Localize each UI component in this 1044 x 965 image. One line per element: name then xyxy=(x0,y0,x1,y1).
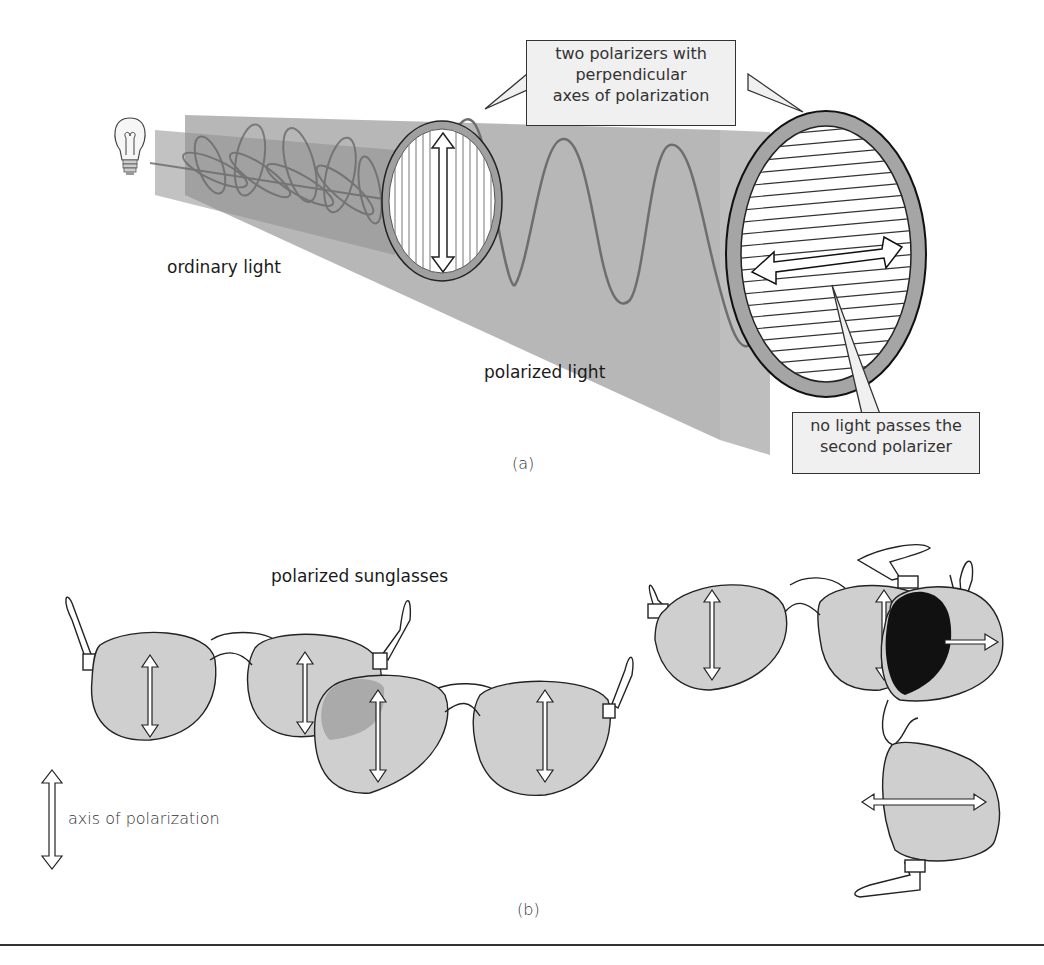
legend-axis-arrow-icon xyxy=(42,770,62,869)
callout-line: axes of polarization xyxy=(533,85,729,106)
caption-a: (a) xyxy=(512,454,534,473)
callout-line: no light passes the xyxy=(799,415,973,436)
legend-label-axis: axis of polarization xyxy=(68,809,220,828)
callout-line: perpendicular xyxy=(533,64,729,85)
title-polarized-sunglasses: polarized sunglasses xyxy=(271,566,448,586)
bottom-divider xyxy=(0,944,1044,946)
light-bulb-icon xyxy=(115,118,145,175)
callout-no-light: no light passes the second polarizer xyxy=(792,412,980,474)
caption-b: (b) xyxy=(517,900,540,919)
callout-line: second polarizer xyxy=(799,436,973,457)
callout-line: two polarizers with xyxy=(533,43,729,64)
label-ordinary-light: ordinary light xyxy=(167,257,281,277)
label-polarized-light: polarized light xyxy=(484,362,605,382)
callout-two-polarizers: two polarizers with perpendicular axes o… xyxy=(526,40,736,126)
first-polarizer xyxy=(382,120,502,281)
panel-b xyxy=(42,545,1003,897)
callout-top-pointer-left xyxy=(485,74,527,109)
callout-top-pointer-right xyxy=(748,74,803,112)
